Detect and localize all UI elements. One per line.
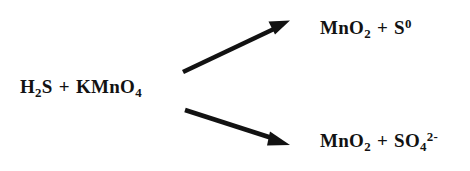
product-top-expression: MnO2+S0 — [320, 16, 412, 42]
product-bottom-manganese-dioxide: MnO2 — [320, 130, 371, 151]
product-bottom-sulfate-ion: SO42- — [394, 130, 438, 151]
product-bottom-plus-operator: + — [371, 130, 394, 152]
upper-reaction-arrow — [183, 21, 290, 73]
lower-reaction-arrow — [185, 110, 290, 146]
reaction-diagram: H2S+KMnO4 MnO2+S0 MnO2+SO42- — [0, 0, 470, 171]
product-top-elemental-sulfur: S0 — [394, 17, 412, 38]
product-top-manganese-dioxide: MnO2 — [320, 17, 371, 38]
product-bottom-expression: MnO2+SO42- — [320, 129, 438, 155]
product-top-plus-operator: + — [371, 17, 394, 39]
